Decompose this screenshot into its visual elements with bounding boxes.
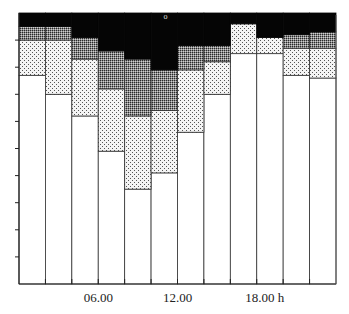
step-bar [151,13,177,70]
step-bar [19,13,45,27]
step-bar [125,189,151,284]
step-bar [19,75,45,284]
step-bar [125,59,151,116]
step-bar [45,94,71,284]
x-tick-labels: 06.0012.0018.00 h [84,290,285,305]
stacked-step-chart: o 06.0012.0018.00 h [0,0,349,314]
step-bar [45,13,71,27]
step-bar [283,35,309,49]
step-bar [204,62,230,95]
stacked-layers [19,13,336,284]
step-bar [72,116,98,284]
annotation-mark: o [164,12,168,21]
step-bar [283,75,309,284]
step-bar [257,37,283,53]
step-bar [283,48,309,75]
step-bar [72,59,98,116]
step-bar [257,54,283,284]
step-bar [45,40,71,94]
step-bar [151,70,177,111]
step-bar [310,32,336,48]
step-bar [151,111,177,173]
step-bar [98,13,124,51]
x-tick-label: 12.00 [163,290,192,305]
step-bar [125,116,151,189]
step-bar [178,46,204,70]
step-bar [72,13,98,37]
step-bar [257,13,283,37]
step-bar [178,132,204,284]
step-bar [178,70,204,132]
x-tick-label: 18.00 h [245,290,285,305]
step-bar [98,89,124,151]
step-bar [204,94,230,284]
step-bar [230,54,256,284]
step-bar [19,27,45,41]
step-bar [98,51,124,89]
step-bar [45,27,71,41]
step-bar [178,13,204,46]
step-bar [310,78,336,284]
step-bar [310,48,336,78]
step-bar [204,13,230,46]
step-bar [98,151,124,284]
step-bar [283,13,309,35]
x-tick-label: 06.00 [84,290,113,305]
step-bar [125,13,151,59]
step-bar [310,13,336,32]
step-bar [72,37,98,59]
step-bar [230,24,256,54]
step-bar [230,13,256,24]
step-bar [19,40,45,75]
step-bar [204,46,230,62]
step-bar [151,173,177,284]
